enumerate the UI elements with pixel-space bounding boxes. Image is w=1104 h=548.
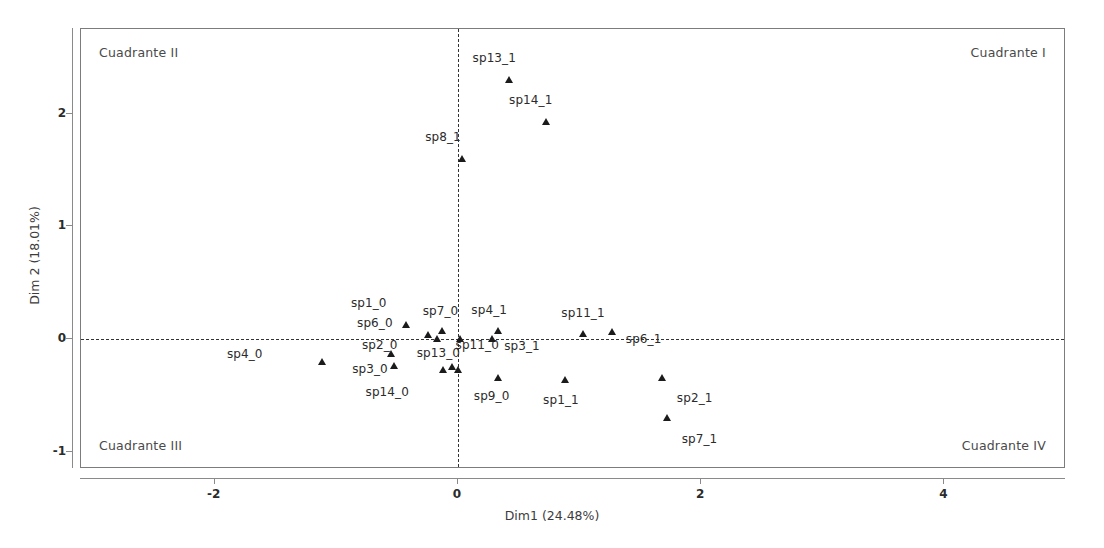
quadrant-label-ii: Cuadrante II xyxy=(99,45,178,60)
y-axis-tick xyxy=(66,338,72,339)
data-point xyxy=(488,335,496,342)
x-axis-tick-label: 2 xyxy=(696,487,704,501)
data-point xyxy=(402,321,410,328)
point-label: sp2_1 xyxy=(677,391,713,405)
horizontal-reference-line xyxy=(81,339,1064,340)
data-point xyxy=(494,374,502,381)
data-point xyxy=(561,376,569,383)
y-axis-line xyxy=(72,28,73,468)
x-axis-tick xyxy=(943,478,944,484)
plot-inner: Cuadrante II Cuadrante I Cuadrante III C… xyxy=(81,29,1064,467)
y-axis-tick-label: -1 xyxy=(52,444,66,458)
x-axis-tick xyxy=(214,478,215,484)
x-axis-title: Dim1 (24.48%) xyxy=(0,508,1104,523)
data-point xyxy=(424,331,432,338)
point-label: sp3_0 xyxy=(352,362,388,376)
point-label: sp6_1 xyxy=(626,332,662,346)
data-point xyxy=(608,328,616,335)
point-label: sp14_0 xyxy=(366,385,409,399)
point-label: sp1_0 xyxy=(351,296,387,310)
data-point xyxy=(458,155,466,162)
data-point xyxy=(658,374,666,381)
data-point xyxy=(505,76,513,83)
x-axis-tick-label: 4 xyxy=(939,487,947,501)
y-axis-tick-label: 0 xyxy=(52,331,66,345)
point-label: sp1_1 xyxy=(543,393,579,407)
point-label: sp6_0 xyxy=(357,316,393,330)
y-axis-title: Dim 2 (18.01%) xyxy=(27,136,42,376)
point-label: sp11_1 xyxy=(561,306,604,320)
data-point xyxy=(439,366,447,373)
quadrant-label-iii: Cuadrante III xyxy=(99,438,182,453)
point-label: sp3_1 xyxy=(504,339,540,353)
point-label: sp4_1 xyxy=(471,303,507,317)
x-axis-tick xyxy=(700,478,701,484)
data-point xyxy=(387,350,395,357)
point-label: sp7_0 xyxy=(423,304,459,318)
quadrant-label-i: Cuadrante I xyxy=(971,45,1046,60)
point-label: sp4_0 xyxy=(227,347,263,361)
data-point xyxy=(579,330,587,337)
vertical-reference-line xyxy=(458,29,459,467)
x-axis-tick-label: -2 xyxy=(207,487,220,501)
y-axis-tick xyxy=(66,451,72,452)
x-axis-line xyxy=(80,478,1065,479)
x-axis-tick xyxy=(457,478,458,484)
data-point xyxy=(663,414,671,421)
quadrant-label-iv: Cuadrante IV xyxy=(962,438,1046,453)
y-axis-tick xyxy=(66,113,72,114)
y-axis-tick xyxy=(66,225,72,226)
point-label: sp7_1 xyxy=(682,432,718,446)
data-point xyxy=(542,118,550,125)
data-point xyxy=(494,327,502,334)
point-label: sp13_1 xyxy=(473,51,516,65)
data-point xyxy=(448,363,456,370)
x-axis-tick-label: 0 xyxy=(453,487,461,501)
data-point xyxy=(433,335,441,342)
y-axis-tick-label: 2 xyxy=(52,106,66,120)
point-label: sp14_1 xyxy=(509,93,552,107)
point-label: sp9_0 xyxy=(474,389,510,403)
y-axis-tick-label: 1 xyxy=(52,218,66,232)
data-point xyxy=(318,358,326,365)
chart-canvas: Cuadrante II Cuadrante I Cuadrante III C… xyxy=(0,0,1104,548)
point-label: sp13_0 xyxy=(417,346,460,360)
plot-area: Cuadrante II Cuadrante I Cuadrante III C… xyxy=(80,28,1065,468)
point-label: sp8_1 xyxy=(425,130,461,144)
data-point xyxy=(438,327,446,334)
data-point xyxy=(390,362,398,369)
